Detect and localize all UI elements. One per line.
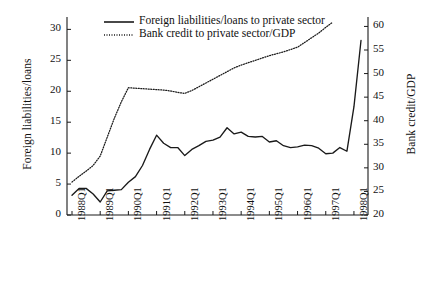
y-axis-right-title: Bank credit/GDP [405, 39, 417, 189]
right-tick-label: 50 [373, 66, 397, 78]
right-tick-label: 40 [373, 113, 397, 125]
right-tick-label: 35 [373, 136, 397, 148]
left-tick-label: 5 [39, 176, 61, 188]
x-tick-label: 1993Q1 [217, 187, 228, 221]
right-tick-label: 45 [373, 89, 397, 101]
series-line-bank-credit [72, 22, 333, 182]
right-tick-label: 25 [373, 183, 397, 195]
right-tick-label: 30 [373, 160, 397, 172]
right-tick-label: 20 [373, 207, 397, 219]
left-tick-label: 0 [39, 207, 61, 219]
y-axis-left-title: Foreign liabilities/loans [21, 39, 33, 189]
x-tick-label: 1990Q1 [132, 187, 143, 221]
x-tick-label: 1988Q1 [76, 187, 87, 221]
left-tick-label: 30 [39, 21, 61, 33]
x-tick-label: 1989Q1 [104, 187, 115, 221]
left-axis-ticks [67, 29, 71, 215]
left-tick-label: 25 [39, 52, 61, 64]
x-tick-label: 1998Q1 [358, 187, 369, 221]
legend-label-foreign-liabilities: Foreign liabilities/loans to private sec… [139, 14, 325, 26]
right-tick-label: 60 [373, 18, 397, 30]
chart-plot-area [0, 0, 433, 284]
left-tick-label: 15 [39, 114, 61, 126]
x-tick-label: 1991Q1 [161, 187, 172, 221]
x-tick-label: 1996Q1 [302, 187, 313, 221]
legend-label-bank-credit: Bank credit to private sector/GDP [139, 27, 296, 39]
left-tick-label: 10 [39, 145, 61, 157]
chart-figure: Foreign liabilities/loans Bank credit/GD… [0, 0, 433, 284]
axis-lines [67, 17, 368, 215]
x-tick-label: 1997Q1 [330, 187, 341, 221]
x-tick-label: 1994Q1 [245, 187, 256, 221]
left-tick-label: 20 [39, 83, 61, 95]
right-tick-label: 55 [373, 42, 397, 54]
series-line-foreign-liabilities [72, 41, 361, 203]
x-tick-label: 1992Q1 [189, 187, 200, 221]
x-tick-label: 1995Q1 [273, 187, 284, 221]
